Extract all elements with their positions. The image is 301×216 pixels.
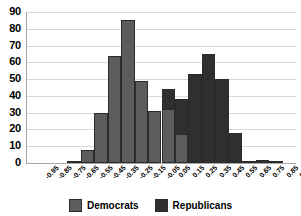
- x-tick-label: 0.55: [244, 164, 259, 179]
- y-tick-label: 0: [15, 157, 21, 168]
- y-tick-label: 30: [9, 107, 21, 118]
- x-tick-label: 0.65: [258, 164, 273, 179]
- bar: [108, 56, 121, 163]
- y-tick-label: 90: [9, 6, 21, 17]
- bar: [94, 113, 107, 163]
- legend-label: Democrats: [87, 200, 139, 211]
- bar: [215, 79, 228, 163]
- bar: [135, 81, 148, 163]
- bar: [256, 160, 269, 163]
- x-tick-label: -0.65: [84, 164, 101, 181]
- y-tick-label: 60: [9, 56, 21, 67]
- bar: [202, 54, 215, 163]
- legend-item[interactable]: Democrats: [69, 199, 139, 212]
- bar: [188, 74, 201, 163]
- bar: [67, 161, 80, 163]
- y-tick-label: 50: [9, 73, 21, 84]
- y-axis-labels: 9080706050403020100: [0, 0, 24, 176]
- bar-series-group: [27, 12, 296, 163]
- bar: [81, 150, 94, 163]
- bar: [175, 134, 188, 163]
- y-tick-label: 80: [9, 23, 21, 34]
- legend-swatch-icon: [155, 199, 168, 212]
- x-tick-label: 0.05: [177, 164, 192, 179]
- y-tick-label: 20: [9, 123, 21, 134]
- x-tick-label: -0.15: [151, 164, 168, 181]
- x-tick-label: 0.15: [191, 164, 206, 179]
- y-tick-label: 10: [9, 140, 21, 151]
- chart-legend: DemocratsRepublicans: [0, 196, 301, 214]
- bar: [148, 111, 161, 163]
- bar: [242, 161, 255, 163]
- bar: [269, 161, 282, 163]
- x-tick-label: 0.85: [285, 164, 300, 179]
- x-tick-label: 0.75: [271, 164, 286, 179]
- bar: [229, 133, 242, 163]
- histogram-chart: 9080706050403020100 -0.95-0.85-0.75-0.65…: [0, 0, 301, 216]
- legend-label: Republicans: [173, 200, 232, 211]
- legend-item[interactable]: Republicans: [155, 199, 232, 212]
- x-axis-labels: -0.95-0.85-0.75-0.65-0.55-0.45-0.35-0.25…: [26, 164, 295, 198]
- plot-area: [26, 12, 296, 164]
- x-tick-label: 0.25: [204, 164, 219, 179]
- x-tick-label: -0.85: [57, 164, 74, 181]
- y-tick-label: 70: [9, 40, 21, 51]
- y-tick-label: 40: [9, 90, 21, 101]
- x-tick-label: 0.35: [218, 164, 233, 179]
- bar: [121, 20, 134, 163]
- x-tick-label: -0.35: [124, 164, 141, 181]
- legend-swatch-icon: [69, 199, 82, 212]
- bar: [162, 109, 175, 163]
- x-tick-label: 0.95: [298, 164, 301, 179]
